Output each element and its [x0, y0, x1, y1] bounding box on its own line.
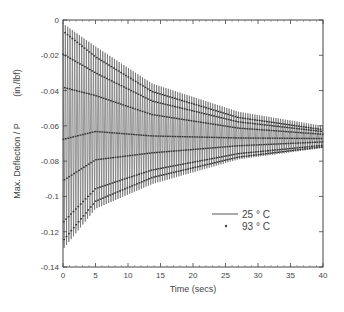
- svg-text:5: 5: [93, 271, 98, 280]
- svg-text:-0.12: -0.12: [41, 228, 60, 237]
- y-axis-title-group: Max. Deflection / P (in./lbf): [12, 69, 22, 199]
- svg-text:-0.1: -0.1: [45, 192, 59, 201]
- svg-text:-0.06: -0.06: [41, 122, 60, 131]
- svg-text:-0.14: -0.14: [41, 263, 60, 272]
- svg-text:-0.04: -0.04: [41, 87, 60, 96]
- legend-dot-marker: [225, 225, 227, 227]
- y-axis-units: (in./lbf): [12, 69, 22, 97]
- svg-text:10: 10: [124, 271, 133, 280]
- svg-text:35: 35: [286, 271, 295, 280]
- svg-text:-0.02: -0.02: [41, 51, 60, 60]
- y-axis-title: Max. Deflection / P: [12, 123, 22, 199]
- plot-data: [62, 24, 323, 248]
- legend-label-93c: 93 ° C: [242, 221, 270, 232]
- legend: 25 ° C 93 ° C: [212, 209, 270, 232]
- svg-text:-0.08: -0.08: [41, 157, 60, 166]
- svg-text:40: 40: [319, 271, 328, 280]
- svg-text:0: 0: [55, 16, 60, 25]
- svg-text:0: 0: [61, 271, 66, 280]
- deflection-chart: 05101520253035400-0.02-0.04-0.06-0.08-0.…: [0, 0, 344, 312]
- x-axis-title: Time (secs): [170, 284, 217, 294]
- svg-text:30: 30: [254, 271, 263, 280]
- legend-label-25c: 25 ° C: [242, 209, 270, 220]
- svg-text:25: 25: [221, 271, 230, 280]
- svg-text:15: 15: [156, 271, 165, 280]
- svg-text:20: 20: [189, 271, 198, 280]
